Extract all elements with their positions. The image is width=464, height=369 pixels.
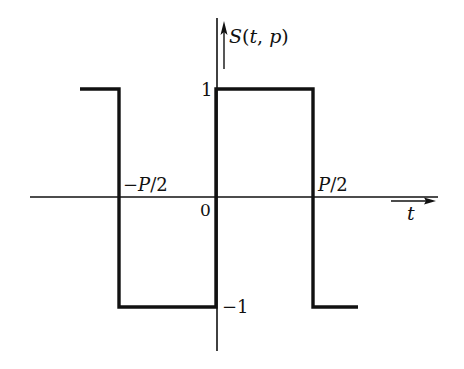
y-arrow-icon [221, 21, 228, 69]
x-axis-label: t [407, 202, 415, 224]
square-wave-diagram: S(t, p) 1 −1 −P/2 0 P/2 t [0, 0, 464, 369]
x-tick-left: −P/2 [123, 174, 168, 195]
square-wave-trace [80, 89, 358, 307]
y-axis-label: S(t, p) [229, 25, 289, 47]
y-tick-low: −1 [222, 296, 249, 317]
y-tick-high: 1 [201, 79, 212, 100]
x-tick-right: P/2 [317, 174, 348, 195]
x-tick-origin: 0 [200, 200, 211, 220]
